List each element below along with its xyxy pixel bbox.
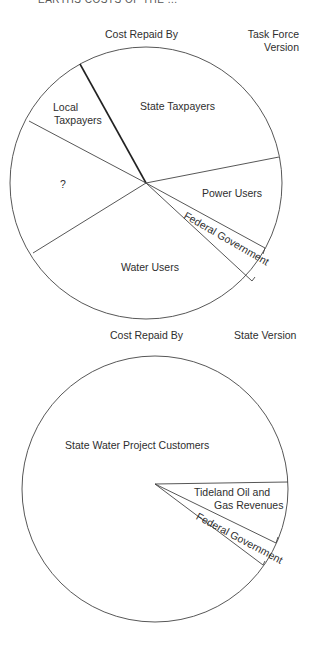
- slice-label-local-taxpayers-2: Taxpayers: [54, 114, 102, 127]
- chart-version-top: Task Force Version: [243, 28, 299, 54]
- boundary-water-unknown: [33, 183, 146, 253]
- version-line-1: Task Force: [243, 28, 299, 41]
- slice-label-local-taxpayers-1: Local: [53, 101, 78, 114]
- slice-label-tideland-2: Gas Revenues: [214, 499, 283, 512]
- slice-label-power-users: Power Users: [202, 187, 262, 200]
- slice-label-water-users: Water Users: [121, 261, 179, 274]
- chart-title-top: Cost Repaid By: [105, 28, 178, 41]
- slice-label-state-taxpayers: State Taxpayers: [140, 100, 215, 113]
- chart-title-bottom: Cost Repaid By: [110, 329, 183, 342]
- pie-task-force: [10, 47, 282, 319]
- slice-label-unknown: ?: [60, 178, 66, 191]
- boundary-state-power: [146, 157, 279, 183]
- version-line-2: Version: [243, 41, 299, 54]
- slice-label-tideland-1: Tideland Oil and: [194, 486, 270, 499]
- chart-version-bottom: State Version: [234, 329, 296, 342]
- slice-label-swp-customers: State Water Project Customers: [65, 439, 209, 452]
- boundary-swp-tideland: [155, 482, 288, 484]
